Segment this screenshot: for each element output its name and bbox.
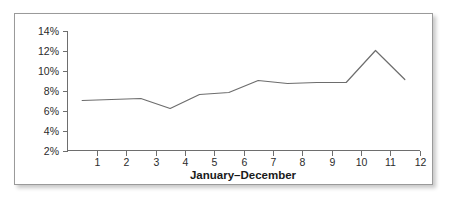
chart-figure-frame: 2%4%6%8%10%12%14% 123456789101112 Januar… — [14, 13, 433, 185]
x-tick-labels: 123456789101112 — [95, 156, 427, 168]
x-tick-label: 8 — [300, 156, 306, 168]
y-tick-label: 12% — [38, 45, 59, 57]
x-tick-label: 5 — [212, 156, 218, 168]
x-tick-label: 3 — [154, 156, 160, 168]
x-tick-label: 12 — [415, 156, 427, 168]
y-tick-label: 4% — [44, 125, 59, 137]
y-tick-label: 10% — [38, 65, 59, 77]
data-series-line — [82, 51, 405, 109]
y-tick-label: 2% — [44, 145, 59, 157]
y-axis-group: 2%4%6%8%10%12%14% — [38, 25, 68, 157]
chart-svg: 2%4%6%8%10%12%14% 123456789101112 Januar… — [15, 14, 434, 186]
x-tick-label: 6 — [242, 156, 248, 168]
x-tick-label: 4 — [183, 156, 189, 168]
line-chart: 2%4%6%8%10%12%14% 123456789101112 Januar… — [15, 14, 434, 186]
y-tick-labels: 2%4%6%8%10%12%14% — [38, 25, 59, 157]
x-axis-group: 123456789101112 — [68, 151, 427, 169]
x-tick-label: 10 — [356, 156, 368, 168]
x-tick-label: 9 — [330, 156, 336, 168]
y-tick-marks — [63, 32, 68, 152]
x-tick-label: 11 — [385, 156, 396, 168]
y-tick-label: 6% — [44, 105, 59, 117]
x-axis-title: January–December — [190, 169, 297, 181]
y-tick-label: 14% — [38, 25, 59, 37]
x-tick-marks — [98, 151, 421, 156]
x-tick-label: 1 — [95, 156, 101, 168]
x-tick-label: 7 — [271, 156, 277, 168]
x-tick-label: 2 — [124, 156, 130, 168]
y-tick-label: 8% — [44, 85, 59, 97]
